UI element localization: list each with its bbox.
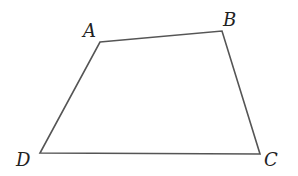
vertex-label-c: C bbox=[264, 149, 278, 170]
quadrilateral-abcd bbox=[40, 31, 260, 154]
vertex-label-d: D bbox=[15, 149, 31, 170]
vertex-label-b: B bbox=[222, 9, 236, 30]
quadrilateral-diagram: A B C D bbox=[0, 0, 298, 176]
vertex-label-a: A bbox=[81, 20, 96, 41]
